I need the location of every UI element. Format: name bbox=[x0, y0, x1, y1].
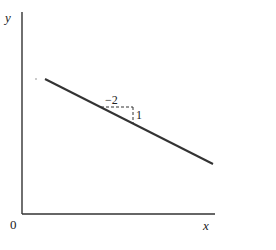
y-axis-label: y bbox=[5, 10, 11, 26]
rise-label: 1 bbox=[136, 108, 142, 123]
diagram-canvas bbox=[0, 0, 276, 250]
sloped-line bbox=[45, 79, 213, 164]
slope-diagram: y x 0 −2 1 bbox=[0, 0, 276, 250]
origin-label: 0 bbox=[10, 217, 17, 233]
x-axis-label: x bbox=[203, 218, 209, 234]
run-label: −2 bbox=[105, 93, 118, 108]
stray-dot bbox=[35, 78, 37, 80]
